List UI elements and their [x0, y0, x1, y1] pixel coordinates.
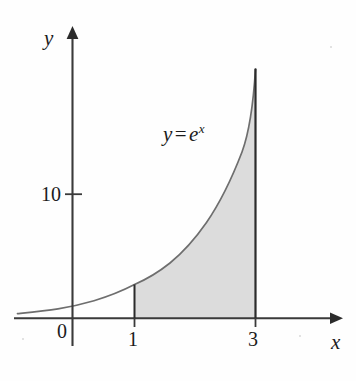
- y-axis-arrowhead: [67, 26, 79, 39]
- equation-base-e: e: [189, 122, 199, 146]
- scan-speck: [330, 46, 332, 48]
- equation-lhs: y: [163, 122, 173, 146]
- x-tick-label-3: 3: [248, 329, 258, 349]
- x-tick-label-1: 1: [128, 329, 138, 349]
- equation-equals: =: [173, 122, 189, 146]
- scan-speck: [22, 338, 24, 340]
- scan-speck: [299, 335, 301, 337]
- shaded-area-region: [135, 69, 256, 318]
- curve-equation-label: y=ex: [163, 122, 205, 145]
- y-tick-label-10: 10: [41, 184, 61, 204]
- equation-exponent: x: [199, 121, 205, 136]
- x-axis-label: x: [331, 332, 340, 353]
- x-axis-arrowhead: [330, 313, 343, 324]
- y-axis-label: y: [44, 28, 53, 49]
- x-tick-label-0: 0: [57, 321, 67, 341]
- figure-container: y x y=ex 10 0 1 3: [0, 0, 356, 381]
